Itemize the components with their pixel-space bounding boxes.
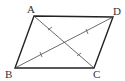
vertex-label-b: B (5, 68, 12, 80)
parallelogram-diagram: A D B C (0, 0, 125, 81)
tick-marks-ac (48, 27, 81, 56)
vertex-label-d: D (113, 5, 121, 17)
diagonal-ac (34, 16, 94, 68)
vertex-label-a: A (27, 3, 35, 15)
vertex-label-c: C (93, 68, 100, 80)
diagonal-bd (15, 17, 113, 68)
